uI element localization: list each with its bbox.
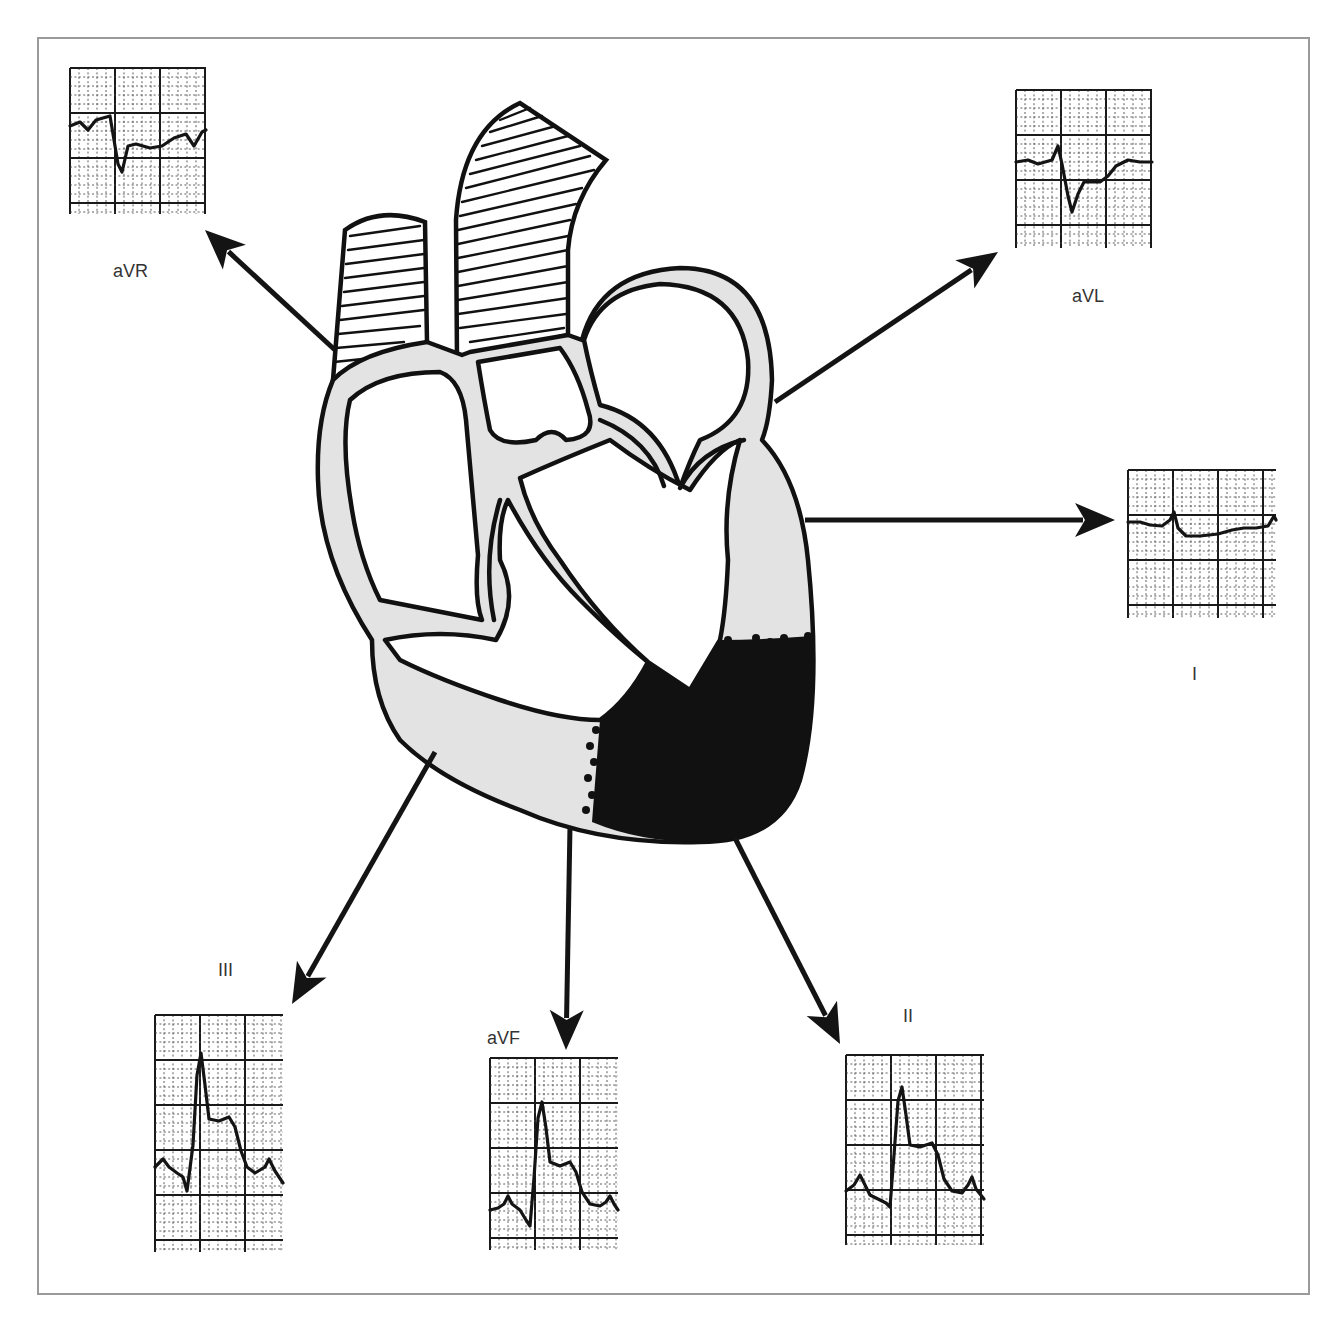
ecg-strip-avl [1016,90,1152,248]
arrow-iii [292,752,435,1004]
arrowhead-icon [292,961,327,1004]
arrow-avl [775,252,998,402]
heart-illustration [318,103,814,842]
arrow-i [805,503,1115,537]
ecg-strip-avr [70,68,206,214]
lead-label-i: I [1192,664,1197,684]
ecg-strip-ii [846,1055,984,1245]
arrow-avr [205,230,335,350]
ecg-strip-i [1128,470,1276,618]
ecg-waveform-iii [155,1053,283,1191]
heart-ecg-diagram: aVRaVLIIIIaVFII [0,0,1344,1320]
lead-label-avf: aVF [487,1028,520,1048]
ecg-strip-iii [155,1015,283,1252]
lead-label-avr: aVR [113,261,148,281]
arrow-ii [735,838,840,1044]
lead-label-avl: aVL [1072,286,1104,306]
lead-label-iii: III [218,960,233,980]
arrow-avf [550,826,584,1050]
aorta [456,103,606,360]
ecg-waveform-avr [70,116,206,172]
ecg-strip-avf [490,1058,618,1250]
arrowhead-icon [955,252,998,288]
lead-label-ii: II [903,1006,913,1026]
